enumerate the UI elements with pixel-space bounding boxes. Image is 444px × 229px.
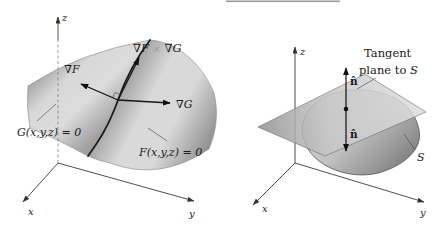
tangent-plane-caption-line1: Tangent (364, 46, 412, 60)
tangent-plane-caption-line2: plane to S (359, 63, 418, 77)
z-axis-label-right: z (299, 46, 306, 57)
cross-label-gradg: ∇G (165, 41, 182, 55)
grad-g-label: ∇G (176, 98, 193, 111)
surface-f-label: F(x,y,z) = 0 (138, 146, 202, 159)
tangency-point (344, 107, 349, 112)
z-axis-label-left: z (61, 12, 68, 23)
textbook-figure: z x y ∇F ∇G ∇F×∇G G(x,y,z) = 0 F(x,y,z) … (0, 0, 444, 229)
x-axis-label-right: x (262, 203, 268, 214)
cross-product-label: ∇F×∇G (133, 41, 182, 55)
x-axis-right (253, 163, 295, 205)
y-axis-left (58, 163, 194, 201)
normal-lower-label: n̂ (350, 128, 358, 140)
figure-canvas: z x y ∇F ∇G ∇F×∇G G(x,y,z) = 0 F(x,y,z) … (0, 0, 444, 229)
cross-label-gradf: ∇F (133, 41, 150, 55)
right-diagram: z x y n̂ n̂ Tangent plane to S S (253, 46, 426, 218)
x-axis-left (23, 163, 58, 202)
y-axis-label-right: y (419, 207, 426, 218)
x-axis-label-left: x (28, 206, 34, 217)
cross-label-times: × (153, 44, 161, 54)
page-rule (226, 1, 340, 3)
tangent-caption-s: S (410, 63, 418, 77)
left-diagram: z x y ∇F ∇G ∇F×∇G G(x,y,z) = 0 F(x,y,z) … (17, 12, 216, 219)
y-axis-label-left: y (188, 208, 195, 219)
surface-s-label: S (417, 151, 425, 164)
normal-upper-label: n̂ (350, 75, 358, 87)
surface-g-label: G(x,y,z) = 0 (17, 126, 81, 139)
tangent-caption-prefix: plane to (359, 63, 410, 77)
grad-f-label: ∇F (64, 63, 80, 76)
